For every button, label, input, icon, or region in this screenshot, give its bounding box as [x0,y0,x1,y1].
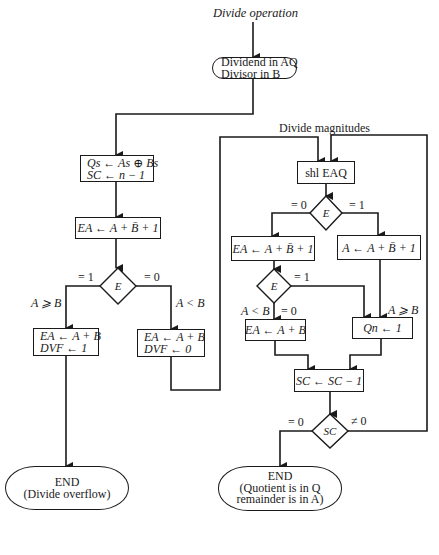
sub-right-box: A ← A + B̄ + 1 [337,235,421,260]
end-result-line-3: remainder is in A) [237,494,324,506]
no-overflow-box: EA ← A + B DVF ← 0 [137,329,205,357]
overflow-check-box: EA ← A + B̄ + 1 [75,217,161,239]
counter-branch-right: ≠ 0 [351,415,367,428]
overflow-line-2: DVF ← 1 [40,342,92,354]
no-overflow-line-2: DVF ← 0 [144,343,198,355]
overflow-cond-right: A < B [176,297,205,310]
overflow-cond-left: A ⩾ B [31,297,61,310]
shift-branch-left: = 0 [291,199,307,212]
overflow-decision-label: E [115,280,122,292]
end-overflow-line-2: (Divide overflow) [24,488,111,500]
overflow-branch-right: = 0 [144,271,160,284]
diagram-title: Divide operation [213,7,298,20]
quotient-text: Qn ← 1 [363,322,402,334]
counter-branch-left: = 0 [288,416,304,429]
end-result-terminal: END (Quotient is in Q remainder is in A) [218,466,342,511]
sign-line-1: Qs ← As ⊕ Bs [87,157,147,169]
quotient-box: Qn ← 1 [352,317,413,339]
counter-decision-label: SC [324,425,337,437]
sub-cond-down: A < B [241,305,270,318]
shift-decision-label: E [323,207,330,219]
sub-decision-label: E [271,280,278,292]
sub-right-text: A ← A + B̄ + 1 [342,242,416,254]
sign-line-2: SC ← n − 1 [87,169,147,181]
counter-text: SC ← SC − 1 [296,375,362,387]
restore-text: EA ← A + B [245,324,306,336]
title-text: Divide operation [213,6,298,20]
sub-cond-right: A ⩾ B [388,304,418,317]
sign-box: Qs ← As ⊕ Bs SC ← n − 1 [80,155,154,182]
end-overflow-terminal: END (Divide overflow) [5,466,129,510]
sub-branch-down: = 0 [281,305,297,318]
sub-branch-right: = 1 [294,271,310,284]
counter-box: SC ← SC − 1 [294,369,364,392]
start-terminal: Dividend in AQ Divisor in B [212,57,297,79]
overflow-branch-left: = 1 [78,271,94,284]
start-line-2: Divisor in B [221,68,280,80]
restore-box: EA ← A + B [245,319,306,341]
sub-left-box: EA ← A + B̄ + 1 [231,236,315,261]
shift-branch-right: = 1 [349,199,365,212]
magnitudes-label: Divide magnitudes [279,122,370,135]
sub-left-text: EA ← A + B̄ + 1 [233,243,314,255]
overflow-check-text: EA ← A + B̄ + 1 [78,222,159,234]
shift-text: shl EAQ [305,167,347,179]
shift-box: shl EAQ [297,161,355,184]
overflow-box: EA ← A + B DVF ← 1 [33,328,99,356]
